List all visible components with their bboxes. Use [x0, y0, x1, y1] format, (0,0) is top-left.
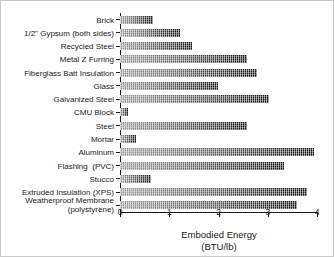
bar — [120, 82, 218, 90]
category-label: Flashing (PVC) — [58, 161, 114, 170]
category-label: Mortar — [91, 135, 114, 144]
x-axis-title: Embodied Energy (BTU/lb) — [120, 229, 318, 253]
category-label: Aluminum — [78, 148, 114, 157]
category-label: Metal Z Furring — [60, 55, 114, 64]
bar-row: Flashing (PVC) — [120, 159, 317, 172]
bar — [120, 188, 307, 196]
category-label: CMU Block — [74, 108, 114, 117]
bar — [120, 29, 180, 37]
bar — [120, 135, 136, 143]
x-axis-title-line1: Embodied Energy — [120, 229, 318, 241]
x-axis-tick-label: 3 — [265, 207, 270, 217]
category-label: Recycled Steel — [61, 42, 114, 51]
x-axis-tick-label: 0 — [118, 207, 123, 217]
x-axis-tick-label: 4 — [315, 207, 320, 217]
bar-row: Fiberglass Batt Insulation — [120, 66, 317, 79]
x-axis-tick-label: 2 — [216, 207, 221, 217]
plot-area: Brick1/2" Gypsum (both sides)Recycled St… — [120, 13, 317, 212]
bar-row: Aluminum — [120, 146, 317, 159]
bar — [120, 42, 192, 50]
bar — [120, 148, 314, 156]
category-label: Stucco — [90, 174, 114, 183]
category-label: Extruded Insulation (XPS) — [22, 188, 114, 197]
bar-row: Stucco — [120, 172, 317, 185]
bar — [120, 69, 257, 77]
bar-row: Galvanized Steel — [120, 93, 317, 106]
bar — [120, 108, 128, 116]
bar — [120, 162, 284, 170]
category-label: Weatherproof Membrane (polystyrene) — [25, 196, 114, 214]
bar — [120, 122, 247, 130]
bar-row: Glass — [120, 79, 317, 92]
category-label: 1/2" Gypsum (both sides) — [24, 28, 114, 37]
x-axis-tick-label: 1 — [167, 207, 172, 217]
bar-row: CMU Block — [120, 106, 317, 119]
bar — [120, 175, 151, 183]
bar — [120, 95, 269, 103]
bar-row: Metal Z Furring — [120, 53, 317, 66]
bar-row: Extruded Insulation (XPS) — [120, 185, 317, 198]
bar-row: Mortar — [120, 132, 317, 145]
bar — [120, 16, 153, 24]
category-label: Brick — [96, 15, 114, 24]
category-label: Glass — [94, 81, 114, 90]
bar-row: Steel — [120, 119, 317, 132]
category-label: Galvanized Steel — [54, 95, 114, 104]
category-label: Fiberglass Batt Insulation — [24, 68, 114, 77]
bar — [120, 55, 247, 63]
chart-figure: Brick1/2" Gypsum (both sides)Recycled St… — [0, 0, 334, 257]
x-axis-title-line2: (BTU/lb) — [120, 241, 318, 253]
category-label: Steel — [96, 121, 114, 130]
bar-row: Recycled Steel — [120, 40, 317, 53]
bar-row: Brick — [120, 13, 317, 26]
bar-row: 1/2" Gypsum (both sides) — [120, 26, 317, 39]
